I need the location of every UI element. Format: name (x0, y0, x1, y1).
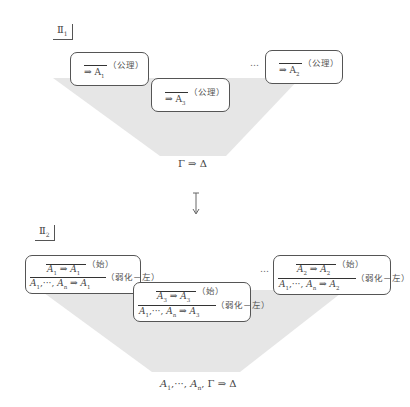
arrow: ⇒ (316, 279, 329, 289)
sequent: ⇒ A2 (279, 65, 299, 77)
panel1-axiom-box-2: ⇒ A2 （公理） (265, 50, 343, 84)
panel2-derivation-box-2: A2 ⇒ A2 （始） A1,···, An ⇒ A2 （弱化－左） (273, 255, 391, 295)
sub: 3 (196, 312, 200, 318)
proof-tree-shading (0, 0, 410, 407)
top-sequent: A1 ⇒ A1 (47, 264, 80, 276)
ellipsis: … (250, 58, 259, 68)
rule-label: （公理） (108, 58, 144, 70)
rule-label-axiom: （始） (87, 257, 114, 269)
panel1-label: Ⅱ1 (53, 24, 73, 40)
sequent-text: ⇒ A (165, 94, 182, 104)
rule-label-axiom: （始） (197, 284, 224, 296)
maps-to-arrow-icon (191, 192, 201, 216)
arrow: ⇒ (176, 306, 189, 316)
sequent-sub: 2 (296, 71, 300, 77)
arrow: ⇒ (67, 278, 80, 288)
sub: 2 (327, 270, 331, 276)
sequent-text: ⇒ A (84, 67, 101, 77)
arrow: ⇒ (307, 264, 320, 274)
top-sequent: A2 ⇒ A2 (297, 264, 330, 276)
bottom-sequent: A1,···, An ⇒ A3 (139, 306, 199, 318)
panel1-label-text: Ⅱ (57, 24, 64, 35)
arrow: ⇒ (57, 264, 70, 274)
sep: ,···, (171, 378, 190, 389)
top-sequent: A3 ⇒ A3 (157, 291, 190, 303)
sep: ,···, (40, 278, 57, 288)
rule-label-weakening: （弱化－左） (356, 271, 410, 283)
sequent: ⇒ A1 (84, 67, 104, 79)
sub: 3 (187, 297, 191, 303)
panel2-label-sub: 2 (46, 231, 50, 238)
panel2-derivation-box-3: A3 ⇒ A3 （始） A1,···, An ⇒ A3 （弱化－左） (133, 282, 251, 322)
panel2-label-text: Ⅱ (39, 225, 46, 236)
sub: 1 (77, 270, 81, 276)
panel2-conclusion: A1,···, An, Γ ⇒ Δ (160, 378, 237, 391)
rule-label-weakening: （弱化－左） (106, 270, 160, 282)
rest: , Γ ⇒ Δ (201, 378, 236, 389)
sep: ,···, (149, 306, 166, 316)
bottom-sequent: A1,···, An ⇒ A1 (30, 278, 90, 290)
sub: 1 (87, 284, 91, 290)
sep: ,···, (289, 279, 306, 289)
panel1-axiom-box-3: ⇒ A3 （公理） (151, 78, 230, 112)
panel1-conclusion: Γ ⇒ Δ (178, 158, 207, 169)
sequent-text: ⇒ A (279, 65, 296, 75)
panel1-axiom-box-1: ⇒ A1 （公理） (70, 52, 149, 86)
sequent-sub: 3 (182, 100, 186, 106)
ellipsis: … (260, 264, 269, 274)
rule-label-weakening: （弱化－左） (216, 298, 270, 310)
arrow: ⇒ (167, 291, 180, 301)
bottom-sequent: A1,···, An ⇒ A2 (279, 279, 339, 291)
panel2-derivation-box-1: A1 ⇒ A1 （始） A1,···, An ⇒ A1 （弱化－左） (25, 255, 141, 294)
sub: 2 (336, 285, 340, 291)
rule-label: （公理） (189, 85, 225, 97)
rule-label: （公理） (303, 56, 339, 68)
sequent: ⇒ A3 (165, 94, 185, 106)
panel2-label: Ⅱ2 (35, 225, 55, 241)
sequent-sub: 1 (101, 73, 105, 79)
rule-label-axiom: （始） (337, 257, 364, 269)
panel1-label-sub: 1 (64, 30, 68, 37)
